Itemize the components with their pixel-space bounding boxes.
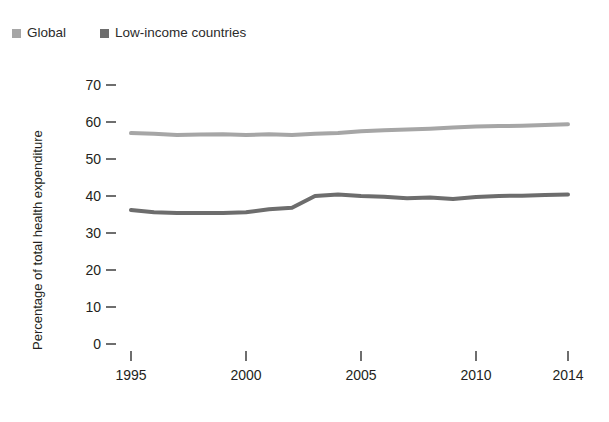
legend-item-low-income-countries[interactable]: Low-income countries [100,26,246,40]
y-axis-tick-label: 70 [85,77,101,93]
legend-label: Low-income countries [115,26,246,40]
legend-swatch-icon [100,29,109,38]
x-axis-tick-label: 2014 [552,367,583,383]
series-line-low-income-countries [131,195,568,214]
y-axis-tick-label: 20 [85,262,101,278]
legend-label: Global [27,26,66,40]
y-axis-tick-label: 60 [85,114,101,130]
x-axis-tick-label: 1995 [115,367,146,383]
cut-off-text-strip [0,0,609,8]
chart-legend: Global Low-income countries [12,24,280,42]
series-line-global [131,124,568,135]
y-axis-tick-label: 40 [85,188,101,204]
y-axis-tick-label: 0 [93,336,101,352]
x-axis-tick-label: 2005 [345,367,376,383]
plot-area: Percentage of total health expenditure 0… [0,60,609,400]
x-axis-tick-label: 2000 [230,367,261,383]
y-axis-tick-label: 50 [85,151,101,167]
x-axis-tick-label: 2010 [460,367,491,383]
chart-figure: Global Low-income countries Percentage o… [0,0,609,422]
line-chart-svg: Percentage of total health expenditure 0… [0,60,609,400]
y-axis: 010203040506070 [85,77,116,352]
legend-item-global[interactable]: Global [12,26,66,40]
legend-swatch-icon [12,29,21,38]
y-axis-title: Percentage of total health expenditure [30,130,45,350]
x-axis: 19952000200520102014 [115,351,583,383]
data-series-group [131,124,568,213]
y-axis-tick-label: 30 [85,225,101,241]
y-axis-tick-label: 10 [85,299,101,315]
